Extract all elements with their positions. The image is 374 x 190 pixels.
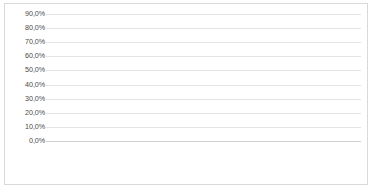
y-axis-tick-label: 50,0% (25, 67, 45, 74)
plot-wrapper: 0,0%10,0%20,0%30,0%40,0%50,0%60,0%70,0%8… (5, 4, 367, 156)
axis-baseline (46, 141, 361, 142)
x-axis (46, 143, 361, 157)
y-axis-tick-label: 90,0% (25, 10, 45, 17)
y-axis-tick-label: 60,0% (25, 53, 45, 60)
y-axis-tick-label: 70,0% (25, 39, 45, 46)
chart-legend (5, 162, 367, 176)
chart-container: 0,0%10,0%20,0%30,0%40,0%50,0%60,0%70,0%8… (4, 3, 368, 185)
y-axis: 0,0%10,0%20,0%30,0%40,0%50,0%60,0%70,0%8… (7, 14, 45, 141)
bar-groups (46, 14, 361, 141)
y-axis-tick-label: 20,0% (25, 109, 45, 116)
plot-area (46, 14, 361, 141)
y-axis-tick-label: 0,0% (29, 137, 45, 144)
y-axis-tick-label: 80,0% (25, 25, 45, 32)
y-axis-tick-label: 30,0% (25, 95, 45, 102)
y-axis-tick-label: 10,0% (25, 123, 45, 130)
y-axis-tick-label: 40,0% (25, 81, 45, 88)
